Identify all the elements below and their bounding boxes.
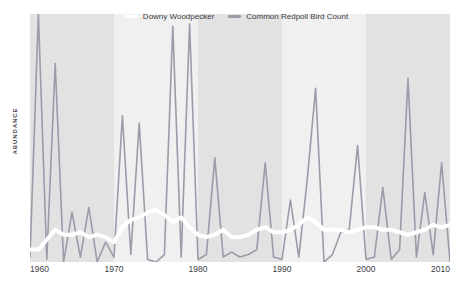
x-axis-tick-label: 1960 [30, 264, 49, 274]
series-svg [30, 14, 450, 262]
x-axis-tick-label: 1970 [105, 264, 124, 274]
y-axis-title-label: ABUNDANCE [12, 108, 18, 155]
chart-container: ABUNDANCE Downy WoodpeckerCommon Redpoll… [0, 0, 473, 294]
plot-area [30, 14, 450, 262]
series-line [30, 14, 450, 262]
y-axis-title: ABUNDANCE [6, 0, 24, 262]
x-axis-tick-label: 2000 [357, 264, 376, 274]
series-layer [30, 14, 450, 262]
x-axis-tick-label: 1980 [189, 264, 208, 274]
x-axis: 196019701980199020002010 [30, 264, 450, 284]
x-axis-tick-label: 1990 [273, 264, 292, 274]
x-axis-tick-label: 2010 [431, 264, 450, 274]
